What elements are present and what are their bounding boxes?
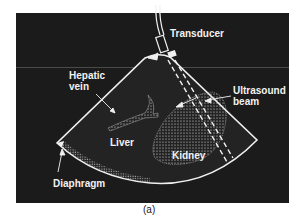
label-hepatic-vein-line2: vein: [69, 81, 105, 92]
label-liver: Liver: [110, 137, 134, 148]
label-diaphragm: Diaphragm: [53, 178, 105, 189]
label-ultrasound-beam-line1: Ultrasound: [233, 85, 286, 96]
label-transducer: Transducer: [170, 28, 224, 39]
label-hepatic-vein: Hepatic vein: [69, 70, 105, 92]
label-kidney: Kidney: [172, 150, 205, 161]
label-ultrasound-beam-line2: beam: [233, 96, 286, 107]
label-ultrasound-beam: Ultrasound beam: [233, 85, 286, 107]
ultrasound-sector-diagram: [0, 0, 303, 223]
figure-caption: (a): [143, 204, 155, 215]
label-hepatic-vein-line1: Hepatic: [69, 70, 105, 81]
